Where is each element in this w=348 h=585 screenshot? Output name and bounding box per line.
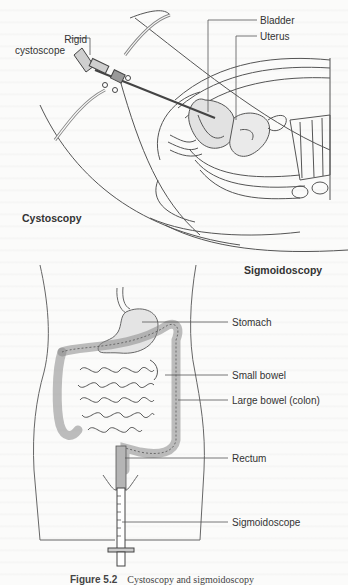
label-large-bowel: Large bowel (colon)	[232, 395, 320, 406]
label-sigmoidoscope: Sigmoidoscope	[232, 517, 300, 528]
label-rectum: Rectum	[232, 453, 266, 464]
label-rigid-cystoscope: Rigid cystoscope	[47, 34, 109, 56]
panel-title-cystoscopy: Cystoscopy	[22, 213, 82, 224]
label-stomach: Stomach	[232, 317, 271, 328]
label-rigid-line: Rigid	[47, 34, 109, 45]
figure-caption: Figure 5.2 Cystoscopy and sigmoidoscopy	[70, 574, 254, 585]
cystoscopy-illustration	[0, 0, 348, 585]
label-uterus: Uterus	[260, 31, 289, 42]
panel-title-sigmoidoscopy: Sigmoidoscopy	[244, 265, 322, 276]
label-bladder: Bladder	[260, 15, 294, 26]
figure-number: Figure 5.2	[70, 574, 117, 585]
label-small-bowel: Small bowel	[232, 370, 286, 381]
figure-caption-text: Cystoscopy and sigmoidoscopy	[127, 574, 254, 585]
label-cystoscope-line: cystoscope	[15, 45, 109, 56]
